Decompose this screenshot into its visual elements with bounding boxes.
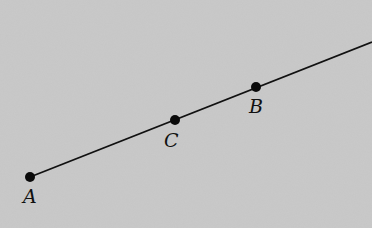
point-b <box>251 82 261 92</box>
label-b: B <box>248 95 263 117</box>
point-c <box>170 115 180 125</box>
label-a: A <box>21 185 37 207</box>
label-c: C <box>164 129 179 151</box>
background-noise <box>0 0 372 228</box>
point-a <box>25 172 35 182</box>
diagram-canvas: A C B <box>0 0 372 228</box>
geometry-figure: A C B <box>0 0 372 228</box>
